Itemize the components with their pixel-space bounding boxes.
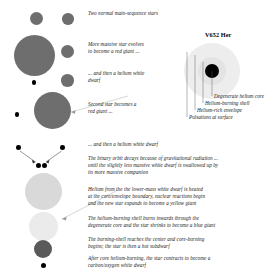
- v652her-label-burning-shell: Helium-burning shell: [205, 100, 250, 106]
- evolution-diagram: Two normal main-sequence stars More mass…: [0, 0, 273, 271]
- v652her-label-degenerate-core: Degenerate helium core: [214, 93, 264, 99]
- v652her-label-pulsations: Pulsations at surface: [189, 114, 233, 120]
- v652her-label-helium-envelope: Helium-rich envelope: [197, 107, 242, 113]
- v652her-leader-lines: [0, 0, 273, 271]
